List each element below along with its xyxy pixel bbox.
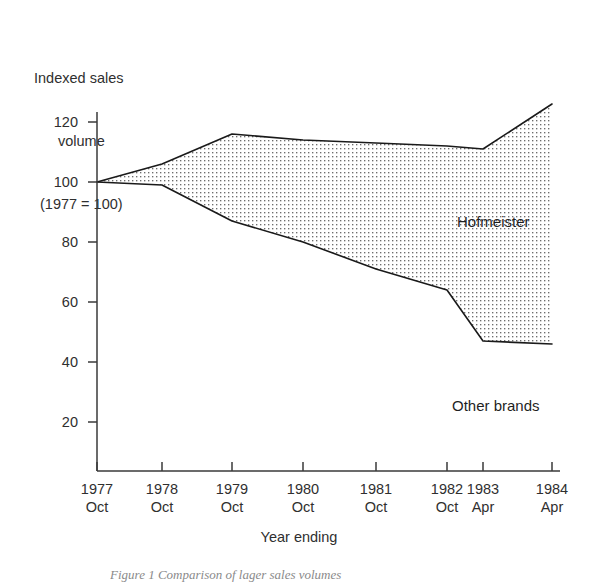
x-tick-label-1978: 1978 Oct	[132, 480, 192, 516]
x-tick-month-1977: Oct	[67, 498, 127, 516]
x-tick-month-1979: Oct	[202, 498, 262, 516]
x-tick-month-1978: Oct	[132, 498, 192, 516]
series-label-other-brands: Other brands	[452, 398, 540, 413]
series-label-hofmeister: Hofmeister	[457, 214, 530, 229]
x-tick-label-1979: 1979 Oct	[202, 480, 262, 516]
x-tick-label-1983: 1983 Apr	[453, 480, 513, 516]
x-tick-label-1977: 1977 Oct	[67, 480, 127, 516]
y-tick-label-40: 40	[32, 355, 78, 370]
y-tick-label-120: 120	[32, 115, 78, 130]
x-tick-year-1983: 1983	[453, 480, 513, 498]
x-tick-label-1981: 1981 Oct	[346, 480, 406, 516]
x-tick-month-1983: Apr	[453, 498, 513, 516]
x-tick-year-1984: 1984	[522, 480, 582, 498]
x-tick-month-1984: Apr	[522, 498, 582, 516]
y-tick-label-100: 100	[32, 175, 78, 190]
x-tick-year-1978: 1978	[132, 480, 192, 498]
x-tick-year-1981: 1981	[346, 480, 406, 498]
x-tick-year-1977: 1977	[67, 480, 127, 498]
x-tick-year-1980: 1980	[273, 480, 333, 498]
figure-caption: Figure 1 Comparison of lager sales volum…	[110, 567, 580, 582]
x-tick-year-1979: 1979	[202, 480, 262, 498]
x-tick-label-1984: 1984 Apr	[522, 480, 582, 516]
x-tick-month-1981: Oct	[346, 498, 406, 516]
y-tick-label-20: 20	[32, 415, 78, 430]
y-tick-label-80: 80	[32, 235, 78, 250]
y-axis-ticks	[88, 122, 97, 422]
x-tick-label-1980: 1980 Oct	[273, 480, 333, 516]
x-axis-ticks	[97, 462, 552, 471]
x-axis-title: Year ending	[0, 529, 598, 545]
y-tick-label-60: 60	[32, 295, 78, 310]
x-tick-month-1980: Oct	[273, 498, 333, 516]
